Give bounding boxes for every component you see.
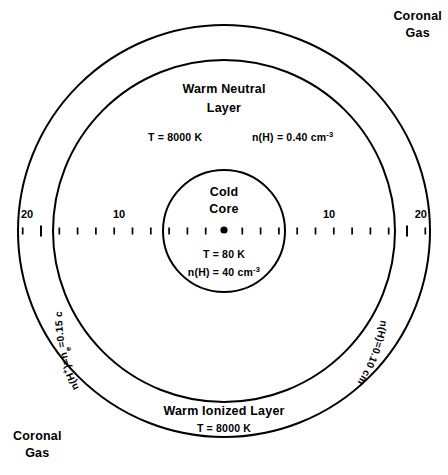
warm-ionized-layer-label: Warm Ionized Layer [163, 404, 284, 419]
center-point-dot [220, 226, 227, 233]
cold-core-label: Cold Core [209, 184, 238, 217]
figure-container: 20101020 n(H+)=ne=0.15 cm-3 n(H)=0.10 cm… [0, 0, 448, 475]
scale-tick-label: 10 [323, 208, 335, 220]
warm-ionized-temperature-value: T = 8000 K [197, 422, 251, 434]
coronal-gas-top-right-label: Coronal Gas [393, 8, 442, 42]
coronal-gas-bottom-left-label: Coronal Gas [13, 428, 62, 462]
core-density-value: n(H) = 40 cm-3 [188, 266, 260, 278]
core-density-text: n(H) = 40 cm [188, 266, 253, 278]
warm-neutral-temperature-value: T = 8000 K [148, 131, 202, 143]
core-density-exponent: -3 [253, 265, 260, 274]
warm-neutral-density-exponent: -3 [326, 130, 333, 139]
warm-neutral-layer-label: Warm Neutral Layer [182, 80, 265, 118]
core-temperature-value: T = 80 K [203, 248, 245, 260]
ionized-density-left-label: n(H+)=ne=0.15 cm-3 [0, 0, 81, 392]
warm-neutral-density-text: n(H) = 0.40 cm [252, 131, 326, 143]
warm-neutral-density-value: n(H) = 0.40 cm-3 [252, 131, 333, 143]
scale-tick-label: 20 [21, 208, 33, 220]
scale-tick-label: 20 [415, 208, 427, 220]
scale-tick-label: 10 [113, 208, 125, 220]
